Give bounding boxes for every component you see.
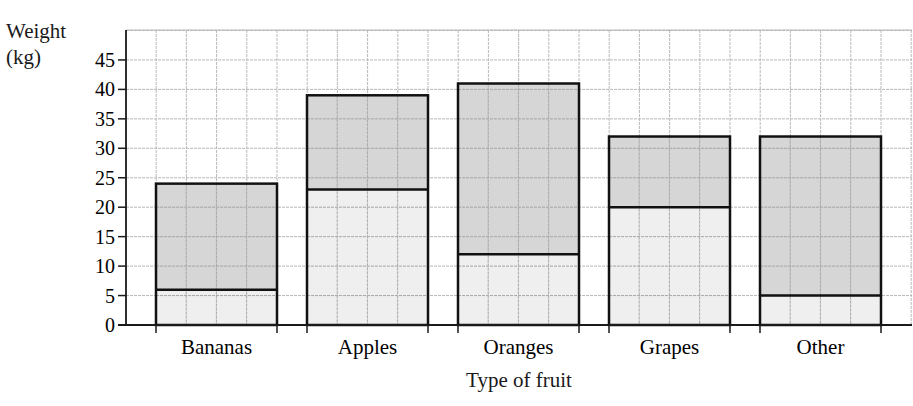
bar-oranges xyxy=(458,84,579,325)
y-tick-label: 25 xyxy=(95,167,115,189)
bar-apples xyxy=(307,95,428,325)
y-tick-label: 35 xyxy=(95,108,115,130)
x-ticks: BananasApplesOrangesGrapesOther xyxy=(156,325,881,359)
y-tick-label: 45 xyxy=(95,49,115,71)
bars xyxy=(156,84,881,325)
x-tick-label-oranges: Oranges xyxy=(484,335,554,359)
bar-segment xyxy=(760,137,881,296)
x-tick-label-other: Other xyxy=(797,335,845,359)
y-tick-label: 10 xyxy=(95,255,115,277)
x-axis-label: Type of fruit xyxy=(0,368,913,393)
y-tick-label: 0 xyxy=(105,314,115,336)
y-tick-label: 15 xyxy=(95,226,115,248)
stacked-bar-chart: 051015202530354045 BananasApplesOrangesG… xyxy=(0,0,913,406)
x-tick-label-bananas: Bananas xyxy=(181,335,252,359)
x-tick-label-grapes: Grapes xyxy=(640,335,699,359)
y-tick-label: 40 xyxy=(95,78,115,100)
y-ticks: 051015202530354045 xyxy=(95,49,126,336)
y-tick-label: 30 xyxy=(95,137,115,159)
y-tick-label: 5 xyxy=(105,285,115,307)
x-tick-label-apples: Apples xyxy=(338,335,398,359)
bar-bananas xyxy=(156,184,277,325)
bar-grapes xyxy=(609,137,730,325)
bar-other xyxy=(760,137,881,325)
y-tick-label: 20 xyxy=(95,196,115,218)
